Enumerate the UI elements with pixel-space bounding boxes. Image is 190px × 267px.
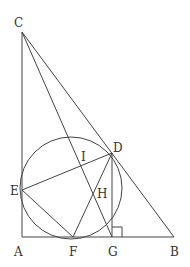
- label-I: I: [81, 150, 86, 164]
- segment-EF: [22, 190, 73, 237]
- label-F: F: [69, 245, 77, 259]
- label-B: B: [170, 245, 179, 259]
- label-G: G: [108, 245, 118, 259]
- right-angle-mark: [112, 227, 122, 237]
- label-H: H: [97, 187, 107, 201]
- label-E: E: [10, 184, 19, 198]
- label-C: C: [14, 16, 23, 30]
- diagram-canvas: C A B D E F G H I: [0, 0, 190, 267]
- label-D: D: [113, 141, 123, 155]
- segment-ED: [22, 153, 112, 190]
- label-A: A: [13, 245, 23, 259]
- geometry-diagram: C A B D E F G H I: [0, 0, 190, 267]
